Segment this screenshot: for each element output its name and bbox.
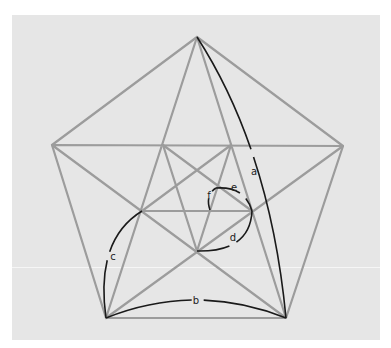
label-b: b xyxy=(193,295,199,306)
label-a: a xyxy=(251,166,257,177)
geometry-lines xyxy=(52,37,343,318)
label-c: c xyxy=(110,251,116,262)
label-f: f xyxy=(207,190,211,201)
label-e: e xyxy=(231,182,237,193)
golden-arcs xyxy=(104,37,286,318)
pentagon-diagram: a b c d e f xyxy=(0,0,391,348)
label-d: d xyxy=(230,232,236,243)
